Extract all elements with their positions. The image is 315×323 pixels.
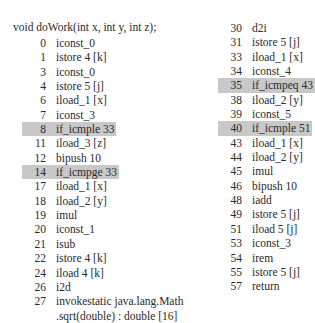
bytecode-line: 38iload_2 [y] [218, 93, 315, 107]
bytecode-column-right: 30d2i31istore 5 [j]33iload_1 [x]34iconst… [218, 21, 315, 294]
bytecode-offset: 26 [22, 280, 46, 294]
bytecode-instruction: iload 5 [j] [242, 222, 297, 236]
bytecode-line: 57return [218, 279, 315, 293]
bytecode-line: 17iload_1 [x] [22, 179, 183, 193]
bytecode-instruction: istore 4 [k] [46, 251, 106, 265]
bytecode-line: 20iconst_1 [22, 222, 183, 236]
bytecode-offset: 6 [22, 93, 46, 107]
bytecode-offset: 39 [218, 107, 242, 121]
bytecode-instruction: iconst_5 [242, 107, 291, 121]
bytecode-offset: 38 [218, 93, 242, 107]
bytecode-line: 55istore 5 [j] [218, 265, 315, 279]
bytecode-offset: 53 [218, 236, 242, 250]
bytecode-instruction: iconst_3 [46, 108, 95, 122]
bytecode-line: 33iload_1 [x] [218, 50, 315, 64]
bytecode-instruction: iload_1 [x] [242, 136, 303, 150]
bytecode-line: 53iconst_3 [218, 236, 315, 250]
bytecode-line: 48iadd [218, 193, 315, 207]
bytecode-instruction: iconst_0 [46, 65, 95, 79]
bytecode-offset: 0 [22, 36, 46, 50]
bytecode-instruction: if_icmpge 33 [46, 165, 117, 179]
bytecode-line: 30d2i [218, 21, 315, 35]
bytecode-line-highlighted: 14if_icmpge 33 [22, 165, 119, 179]
bytecode-instruction: iload_1 [x] [46, 179, 107, 193]
bytecode-line: 18iload_2 [y] [22, 194, 183, 208]
bytecode-line: 6iload_1 [x] [22, 93, 183, 107]
bytecode-line: 34iconst_4 [218, 64, 315, 78]
bytecode-instruction: if_icmpeq 43 [242, 78, 313, 92]
bytecode-instruction: invokestatic java.lang.Math [46, 294, 183, 308]
bytecode-instruction: bipush 10 [242, 179, 297, 193]
bytecode-offset: 12 [22, 151, 46, 165]
bytecode-offset: 31 [218, 35, 242, 49]
bytecode-line: 54irem [218, 251, 315, 265]
bytecode-instruction: istore 5 [j] [242, 265, 300, 279]
bytecode-offset: 17 [22, 179, 46, 193]
bytecode-offset: 24 [22, 266, 46, 280]
bytecode-instruction: d2i [242, 21, 267, 35]
bytecode-column-left: 0iconst_01istore 4 [k]3iconst_04istore 5… [22, 36, 183, 323]
bytecode-offset: 43 [218, 136, 242, 150]
bytecode-offset: 45 [218, 164, 242, 178]
bytecode-instruction: if_icmple 33 [46, 122, 114, 136]
bytecode-instruction: iconst_1 [46, 222, 95, 236]
bytecode-instruction: istore 5 [j] [242, 35, 300, 49]
bytecode-offset: 8 [22, 122, 46, 136]
bytecode-offset: 7 [22, 108, 46, 122]
bytecode-offset: 46 [218, 179, 242, 193]
bytecode-line: 26i2d [22, 280, 183, 294]
bytecode-offset: 14 [22, 165, 46, 179]
bytecode-instruction: isub [46, 237, 75, 251]
bytecode-line-highlighted: 35if_icmpeq 43 [218, 78, 315, 92]
bytecode-offset: 18 [22, 194, 46, 208]
bytecode-line: 51iload 5 [j] [218, 222, 315, 236]
bytecode-instruction: bipush 10 [46, 151, 101, 165]
bytecode-instruction: imul [46, 208, 77, 222]
bytecode-line: 0iconst_0 [22, 36, 183, 50]
bytecode-instruction: iload_1 [x] [242, 50, 303, 64]
bytecode-offset: 33 [218, 50, 242, 64]
bytecode-offset: 21 [22, 237, 46, 251]
bytecode-instruction: iconst_3 [242, 236, 291, 250]
bytecode-line: 24iload 4 [k] [22, 266, 183, 280]
bytecode-line: 21isub [22, 237, 183, 251]
bytecode-offset: 40 [218, 121, 242, 135]
bytecode-line: 31istore 5 [j] [218, 35, 315, 49]
bytecode-offset: 49 [218, 207, 242, 221]
bytecode-line: 46bipush 10 [218, 179, 315, 193]
bytecode-instruction: iconst_4 [242, 64, 291, 78]
bytecode-line: 39iconst_5 [218, 107, 315, 121]
bytecode-offset: 57 [218, 279, 242, 293]
bytecode-line: 19imul [22, 208, 183, 222]
bytecode-line: 1istore 4 [k] [22, 50, 183, 64]
bytecode-line: 43iload_1 [x] [218, 136, 315, 150]
bytecode-line: 22istore 4 [k] [22, 251, 183, 265]
bytecode-instruction: iload_2 [y] [46, 194, 107, 208]
bytecode-offset: 19 [22, 208, 46, 222]
bytecode-instruction: if_icmple 51 [242, 121, 310, 135]
bytecode-offset: 30 [218, 21, 242, 35]
bytecode-instruction: i2d [46, 280, 71, 294]
bytecode-instruction: iload_2 [y] [242, 150, 303, 164]
bytecode-offset: 51 [218, 222, 242, 236]
bytecode-instruction: istore 5 [j] [46, 79, 104, 93]
bytecode-instruction: iconst_0 [46, 36, 95, 50]
bytecode-line: 4istore 5 [j] [22, 79, 183, 93]
bytecode-offset: 54 [218, 251, 242, 265]
bytecode-offset: 1 [22, 50, 46, 64]
bytecode-instruction: imul [242, 164, 273, 178]
bytecode-line: 45imul [218, 164, 315, 178]
method-signature: void doWork(int x, int y, int z); [13, 21, 156, 33]
bytecode-instruction: istore 5 [j] [242, 207, 300, 221]
bytecode-instruction: iadd [242, 193, 272, 207]
bytecode-instruction: iload_1 [x] [46, 93, 107, 107]
bytecode-offset: 44 [218, 150, 242, 164]
bytecode-instruction: irem [242, 251, 273, 265]
bytecode-instruction: istore 4 [k] [46, 50, 106, 64]
bytecode-offset: 35 [218, 78, 242, 92]
bytecode-instruction: iload 4 [k] [46, 266, 104, 280]
bytecode-offset: 34 [218, 64, 242, 78]
bytecode-line: 44iload_2 [y] [218, 150, 315, 164]
bytecode-line-highlighted: 8if_icmple 33 [22, 122, 116, 136]
bytecode-offset: 55 [218, 265, 242, 279]
